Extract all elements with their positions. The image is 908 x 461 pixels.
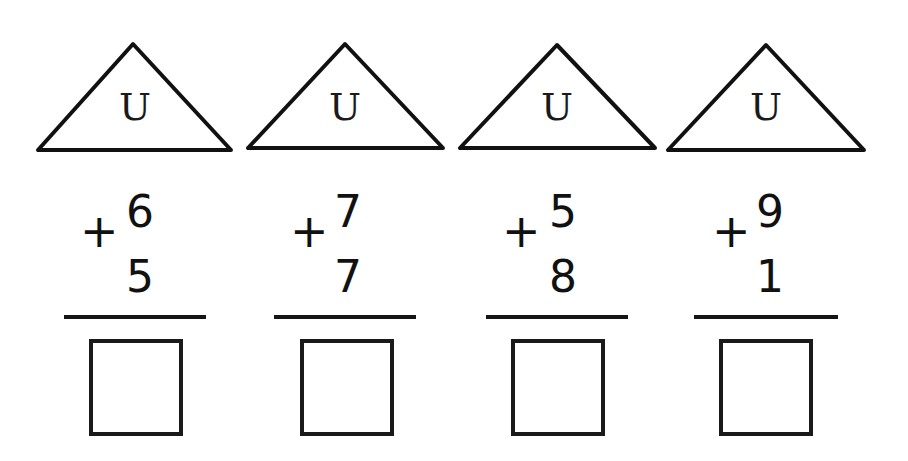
roof-triangle bbox=[661, 40, 871, 156]
bottom-addend: 7 bbox=[328, 255, 368, 299]
plus-sign: + bbox=[502, 208, 541, 254]
sum-line bbox=[274, 315, 416, 319]
triangle-icon bbox=[240, 40, 450, 156]
plus-sign: + bbox=[290, 208, 329, 254]
roof-triangle bbox=[240, 40, 450, 156]
triangle-icon bbox=[452, 40, 662, 156]
top-addend: 5 bbox=[543, 190, 583, 234]
bottom-addend: 5 bbox=[120, 255, 160, 299]
top-addend: 6 bbox=[120, 190, 160, 234]
triangle-icon bbox=[661, 40, 871, 156]
addition-problem-4: U + 9 1 bbox=[661, 0, 871, 461]
addition-problem-2: U + 7 7 bbox=[240, 0, 450, 461]
roof-triangle bbox=[30, 40, 240, 156]
plus-sign: + bbox=[80, 208, 119, 254]
sum-line bbox=[694, 315, 838, 319]
addition-problem-3: U + 5 8 bbox=[452, 0, 662, 461]
top-addend: 7 bbox=[328, 190, 368, 234]
answer-box[interactable] bbox=[89, 339, 183, 436]
addition-problem-1: U + 6 5 bbox=[30, 0, 240, 461]
sum-line bbox=[486, 315, 628, 319]
sum-line bbox=[64, 315, 206, 319]
plus-sign: + bbox=[712, 208, 751, 254]
top-addend: 9 bbox=[750, 190, 790, 234]
answer-box[interactable] bbox=[511, 339, 605, 436]
triangle-icon bbox=[30, 40, 240, 156]
bottom-addend: 1 bbox=[750, 255, 790, 299]
roof-triangle bbox=[452, 40, 662, 156]
answer-box[interactable] bbox=[719, 339, 813, 436]
answer-box[interactable] bbox=[300, 339, 394, 436]
bottom-addend: 8 bbox=[543, 255, 583, 299]
